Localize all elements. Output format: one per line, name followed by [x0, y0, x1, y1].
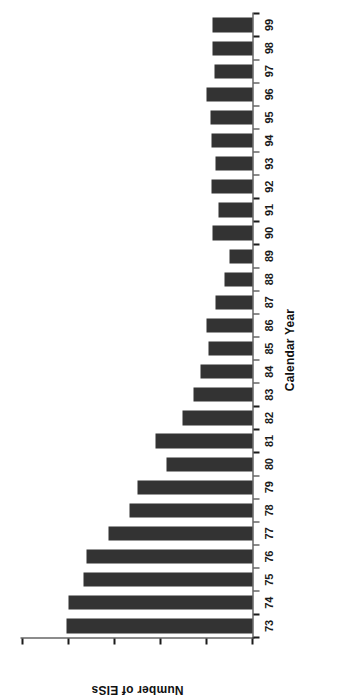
category-axis-tick: [253, 151, 259, 152]
category-axis-tick: [253, 243, 259, 244]
category-axis-tick: [253, 475, 259, 476]
category-axis-tick-label: 73: [262, 620, 274, 632]
bar: [129, 503, 252, 517]
bar: [206, 318, 252, 332]
bar: [212, 17, 252, 31]
bar: [211, 133, 252, 147]
bar: [210, 110, 252, 124]
category-axis-tick-label: 81: [262, 435, 274, 447]
category-axis-tick-label: 88: [262, 273, 274, 285]
bar: [182, 410, 252, 424]
bar: [214, 64, 252, 78]
bar: [212, 225, 252, 239]
bar: [208, 341, 252, 355]
category-axis-tick: [253, 336, 259, 337]
category-axis-tick: [253, 12, 259, 13]
category-axis-tick-label: 97: [262, 65, 274, 77]
bar: [155, 433, 252, 447]
category-axis-tick: [253, 359, 259, 360]
category-axis-tick-label: 85: [262, 342, 274, 354]
category-axis-tick-label: 93: [262, 157, 274, 169]
category-axis-tick-label: 87: [262, 296, 274, 308]
bar: [215, 295, 252, 309]
bar: [206, 87, 252, 101]
category-axis-tick-label: 75: [262, 573, 274, 585]
category-axis-tick: [253, 59, 259, 60]
category-axis-tick: [253, 174, 259, 175]
category-axis-tick-label: 95: [262, 111, 274, 123]
category-axis-tick: [253, 267, 259, 268]
category-axis-tick: [253, 636, 259, 637]
category-axis-tick-label: 98: [262, 42, 274, 54]
bar: [200, 364, 252, 378]
bar: [229, 249, 252, 263]
category-axis-tick: [253, 313, 259, 314]
category-axis-tick: [253, 613, 259, 614]
bar: [137, 480, 252, 494]
bar: [108, 526, 252, 540]
category-axis-tick-label: 84: [262, 365, 274, 377]
bar: [215, 156, 252, 170]
category-axis-tick-label: 82: [262, 412, 274, 424]
category-axis-tick: [253, 82, 259, 83]
category-axis-tick-label: 94: [262, 134, 274, 146]
category-axis-tick: [253, 128, 259, 129]
bar: [193, 387, 252, 401]
category-axis-tick: [253, 197, 259, 198]
bar: [166, 457, 252, 471]
category-axis-tick: [253, 290, 259, 291]
value-axis-tick: [67, 638, 68, 644]
category-axis-tick: [253, 544, 259, 545]
category-axis-tick-label: 76: [262, 550, 274, 562]
category-axis-tick-label: 74: [262, 596, 274, 608]
category-axis-tick-label: 79: [262, 481, 274, 493]
category-axis-tick-label: 92: [262, 180, 274, 192]
bar: [212, 41, 252, 55]
bar: [211, 179, 252, 193]
category-axis-tick-label: 96: [262, 88, 274, 100]
bar: [83, 572, 252, 586]
category-axis-tick: [253, 382, 259, 383]
category-axis-tick: [253, 105, 259, 106]
value-axis-tick: [113, 638, 114, 644]
category-axis-tick: [253, 451, 259, 452]
category-axis-tick: [253, 220, 259, 221]
rotated-figure-container: 05001000150020002500 7374757677787980818…: [0, 0, 343, 699]
category-axis-tick: [253, 428, 259, 429]
value-axis-tick: [21, 638, 22, 644]
plot-area: [22, 13, 252, 637]
value-axis-tick: [159, 638, 160, 644]
category-axis-tick-label: 91: [262, 204, 274, 216]
category-axis-tick: [253, 498, 259, 499]
category-axis-tick: [253, 405, 259, 406]
x-axis-title: Calendar Year: [282, 0, 296, 699]
bar: [224, 272, 252, 286]
value-axis-tick: [251, 638, 252, 644]
category-axis-tick-label: 86: [262, 319, 274, 331]
category-axis-tick: [253, 35, 259, 36]
bar: [66, 618, 252, 632]
category-axis-tick-label: 77: [262, 527, 274, 539]
category-axis-tick: [253, 590, 259, 591]
bar: [86, 549, 252, 563]
category-axis-tick: [253, 567, 259, 568]
category-axis-tick-label: 83: [262, 388, 274, 400]
category-axis-tick-label: 89: [262, 250, 274, 262]
category-axis-tick-label: 90: [262, 227, 274, 239]
value-axis-tick: [205, 638, 206, 644]
y-axis-title: Number of EISs: [91, 682, 183, 696]
bar: [68, 595, 252, 609]
category-axis-tick-label: 78: [262, 504, 274, 516]
bar: [218, 202, 253, 216]
category-axis-tick-label: 80: [262, 458, 274, 470]
category-axis-tick: [253, 521, 259, 522]
bar-chart-figure: 05001000150020002500 7374757677787980818…: [0, 0, 343, 699]
category-axis-tick-label: 99: [262, 19, 274, 31]
